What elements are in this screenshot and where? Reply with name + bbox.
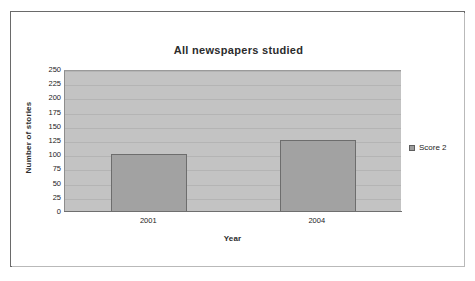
x-axis-tick-label: 2001: [128, 216, 168, 225]
bar: [111, 154, 187, 213]
bar: [280, 140, 356, 212]
y-axis-tick-labels: 2502252001751501251007550250: [33, 70, 63, 212]
x-axis-title: Year: [64, 234, 401, 243]
y-axis-tick-label: 0: [33, 208, 61, 216]
gridline: [65, 85, 401, 86]
x-axis-tick-label: 2004: [297, 216, 337, 225]
y-axis-tick-label: 225: [33, 80, 61, 88]
y-axis-tick-label: 250: [33, 66, 61, 74]
y-axis-tick-label: 100: [33, 151, 61, 159]
x-axis-line: [64, 211, 402, 212]
legend-swatch-icon: [409, 145, 415, 151]
legend-label: Score 2: [419, 143, 447, 152]
y-axis-tick-label: 50: [33, 180, 61, 188]
gridline: [65, 99, 401, 100]
y-axis-tick-label: 125: [33, 137, 61, 145]
chart-frame: All newspapers studied Number of stories…: [10, 11, 465, 267]
y-axis-title: Number of stories: [24, 83, 33, 193]
gridline: [65, 71, 401, 72]
y-axis-tick-label: 75: [33, 165, 61, 173]
y-axis-tick-label: 150: [33, 123, 61, 131]
chart-screenshot: All newspapers studied Number of stories…: [0, 0, 475, 281]
chart-legend: Score 2: [409, 143, 447, 152]
y-axis-tick-label: 25: [33, 194, 61, 202]
gridline: [65, 114, 401, 115]
y-axis-tick-label: 175: [33, 109, 61, 117]
gridline: [65, 128, 401, 129]
chart-title: All newspapers studied: [11, 44, 466, 56]
y-axis-tick-label: 200: [33, 94, 61, 102]
plot-area: [64, 70, 401, 212]
